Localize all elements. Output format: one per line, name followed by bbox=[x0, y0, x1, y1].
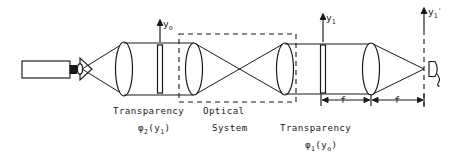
fourier-transform-lens-2 bbox=[277, 43, 294, 95]
laser-source bbox=[22, 61, 77, 78]
fourier-transform-lens-1 bbox=[186, 43, 203, 95]
collimating-lens bbox=[116, 42, 133, 96]
transparency-2-caption-line1: Transparency bbox=[113, 105, 184, 116]
axis-label-y1-prime: y1' bbox=[428, 6, 442, 20]
axis-arrow-y1 bbox=[320, 14, 326, 43]
transparency-plate-2 bbox=[158, 45, 163, 93]
dimension-label-f-left: f bbox=[340, 94, 346, 105]
dimension-f-left bbox=[321, 94, 371, 106]
optical-system-caption-line1: Optical bbox=[203, 105, 245, 116]
output-fourier-lens bbox=[363, 43, 380, 95]
optical-system-diagram: yo y1 y1' Transparency φ2(y1) Optical Sy… bbox=[0, 0, 471, 153]
photodetector-icon bbox=[429, 61, 440, 87]
converging-beam-rays bbox=[373, 44, 424, 94]
axis-label-y0: yo bbox=[163, 18, 173, 32]
crossing-rays-fourier-plane bbox=[196, 44, 283, 94]
dimension-label-f-right: f bbox=[394, 94, 400, 105]
transparency-2-caption-formula: φ2(y1) bbox=[138, 122, 171, 136]
collimated-beam-segment-2 bbox=[285, 44, 371, 94]
transparency-plate-1 bbox=[321, 45, 326, 93]
pinhole-spatial-filter-icon bbox=[77, 58, 92, 80]
axis-label-y1: y1 bbox=[326, 12, 336, 26]
axis-arrow-y1-prime bbox=[421, 8, 427, 31]
axis-arrow-y0 bbox=[157, 20, 163, 43]
optical-system-caption-line2: System bbox=[212, 122, 248, 133]
transparency-1-caption-line1: Transparency bbox=[280, 122, 351, 133]
transparency-1-caption-formula: φ1(yo) bbox=[305, 139, 338, 153]
